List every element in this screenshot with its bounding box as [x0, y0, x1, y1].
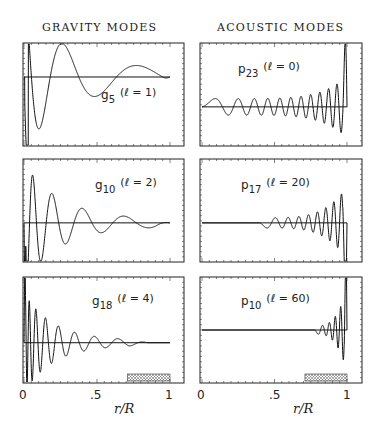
label-main: g	[101, 88, 109, 102]
label-main: p	[241, 294, 249, 308]
label-sub: 5	[109, 94, 115, 105]
label-sub: 18	[100, 300, 113, 311]
label-par: (ℓ = 1)	[120, 86, 156, 99]
label-main: p	[241, 178, 249, 192]
xlabel-left: r/R	[114, 401, 134, 416]
label-sub: 10	[103, 184, 116, 195]
xtick-right-05: .5	[269, 388, 280, 402]
label-g5: g5(ℓ = 1)	[101, 88, 156, 102]
label-g18: g18(ℓ = 4)	[92, 294, 154, 308]
label-p23: p23(ℓ = 0)	[238, 62, 300, 76]
label-par: (ℓ = 20)	[266, 176, 309, 189]
xtick-left-1: 1	[165, 388, 173, 402]
label-p17: p17(ℓ = 20)	[241, 178, 310, 192]
xtick-left-05: .5	[90, 388, 101, 402]
xtick-left-0: 0	[19, 388, 27, 402]
label-sub: 17	[249, 184, 262, 195]
label-g10: g10(ℓ = 2)	[95, 178, 157, 192]
label-par: (ℓ = 4)	[117, 292, 153, 305]
eigenfunction-p17	[202, 194, 347, 261]
label-par: (ℓ = 0)	[263, 60, 299, 73]
eigenfunction-p10	[202, 278, 347, 360]
label-p10: p10(ℓ = 60)	[241, 294, 310, 308]
eigenfunction-plots	[0, 0, 381, 430]
label-par: (ℓ = 2)	[120, 176, 156, 189]
frame-p23	[200, 43, 362, 146]
label-sub: 10	[249, 300, 262, 311]
xtick-right-0: 0	[197, 388, 205, 402]
label-main: g	[92, 294, 100, 308]
label-sub: 23	[246, 68, 259, 79]
convection-zone-shading-p10	[305, 374, 347, 381]
eigenfunction-p23	[202, 44, 347, 133]
label-par: (ℓ = 60)	[266, 292, 309, 305]
label-main: p	[238, 62, 246, 76]
xtick-right-1: 1	[343, 388, 351, 402]
label-main: g	[95, 178, 103, 192]
xlabel-right: r/R	[293, 401, 313, 416]
convection-zone-shading-g18	[128, 374, 170, 381]
